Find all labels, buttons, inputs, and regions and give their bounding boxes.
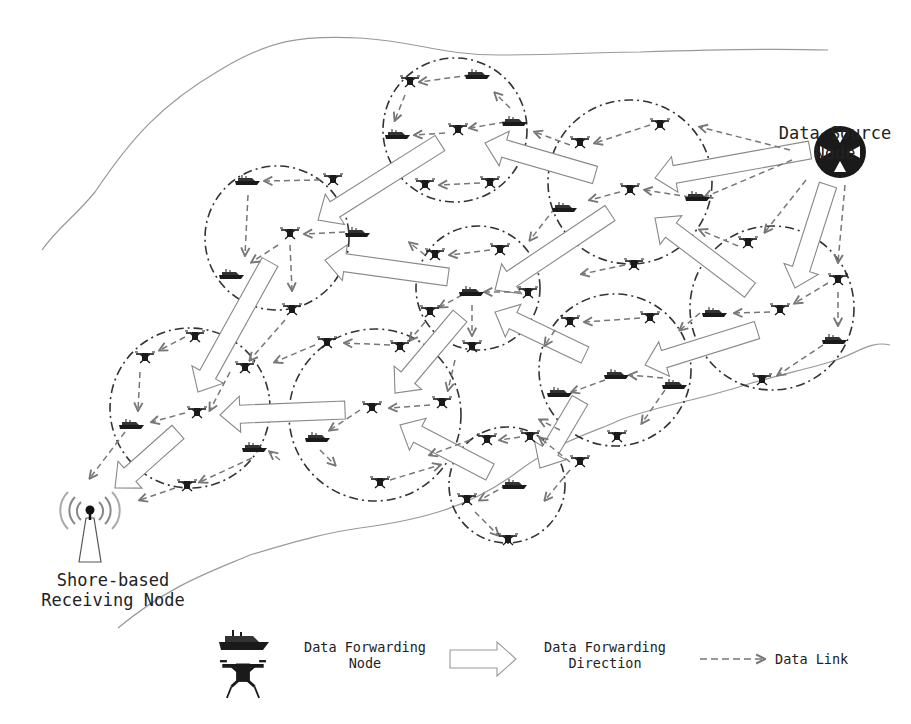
forwarding-direction-arrow [655, 216, 755, 297]
data-link [305, 232, 345, 234]
uav-node-icon [187, 407, 207, 418]
forwarding-direction-arrow [495, 304, 589, 363]
legend-node-line1: Data Forwarding [280, 640, 450, 656]
data-link [500, 437, 520, 440]
usv-node-icon [822, 334, 847, 344]
forwarding-direction-arrow [495, 206, 615, 294]
forwarding-direction-arrow [220, 396, 345, 432]
data-link [595, 125, 650, 143]
data-link [140, 488, 175, 500]
uav-node-icon [457, 494, 477, 505]
usv-node-icon [465, 69, 490, 79]
uav-node-icon [135, 352, 155, 363]
data-link [475, 512, 498, 535]
data-link [390, 405, 430, 408]
legend-drone-icon [220, 661, 266, 698]
uav-node-icon [640, 312, 660, 323]
data-link [152, 413, 185, 422]
forwarding-direction-arrow [318, 135, 445, 224]
uav-node-icon [607, 431, 627, 442]
uav-node-icon [235, 362, 255, 373]
legend-node-line2: Node [280, 656, 450, 672]
uav-node-icon [185, 331, 205, 342]
uav-node-icon [828, 274, 848, 285]
shore-receiving-node-icon [60, 492, 119, 562]
uav-node-icon [752, 374, 772, 385]
cluster-circle [690, 226, 854, 390]
data-link [440, 295, 462, 307]
uav-node-icon [425, 249, 445, 260]
uav-node-icon [317, 337, 337, 348]
forwarding-direction-arrow [115, 425, 184, 488]
uav-node-icon [520, 431, 540, 442]
data-link [138, 372, 140, 410]
uav-node-icon [770, 304, 790, 315]
data-link [448, 360, 455, 390]
network-diagram [0, 0, 911, 724]
data-link [395, 95, 405, 120]
usv-node-icon [459, 286, 484, 296]
cluster-circle [205, 166, 349, 310]
legend-forwarding-direction-label: Data Forwarding Direction [525, 640, 685, 671]
data-source-node-label: Data Source Node [765, 124, 905, 163]
data-link [535, 132, 570, 145]
data-link [200, 458, 252, 482]
uav-node-icon [570, 456, 590, 467]
uav-node-icon [477, 434, 497, 445]
legend-forwarding-direction-arrow-icon [450, 642, 516, 676]
uav-node-icon [370, 477, 390, 488]
shore-label-line2: Receiving Node [18, 591, 208, 611]
data-link [470, 122, 505, 128]
usv-node-icon [119, 419, 144, 429]
shore-receiving-node-label: Shore-based Receiving Node [18, 571, 208, 610]
usv-node-icon [702, 307, 727, 317]
data-link [642, 390, 665, 423]
uav-node-icon [570, 137, 590, 148]
data-source-label-line2: Node [765, 144, 905, 164]
data-link [415, 133, 445, 135]
data-link [495, 93, 510, 108]
legend-data-link-label: Data Link [775, 652, 875, 668]
legend-forwarding-node-label: Data Forwarding Node [280, 640, 450, 671]
data-link [795, 283, 828, 303]
data-link [838, 185, 845, 262]
usv-node-icon [502, 116, 527, 126]
usv-node-icon [552, 202, 577, 212]
data-source-label-line1: Data Source [765, 124, 905, 144]
legend-direction-line2: Direction [525, 656, 685, 672]
data-link [585, 318, 640, 322]
data-link [450, 250, 490, 255]
shore-label-line1: Shore-based [18, 571, 208, 591]
uav-node-icon [624, 259, 644, 270]
usv-node-icon [242, 442, 267, 452]
usv-node-icon [385, 129, 410, 139]
uav-node-icon [415, 179, 435, 190]
legend-boat-icon [219, 630, 269, 650]
data-link [440, 183, 480, 185]
data-link [572, 380, 605, 392]
data-link [410, 243, 425, 255]
uav-node-icon [390, 341, 410, 352]
usv-node-icon [305, 432, 330, 442]
data-link [290, 245, 292, 290]
data-link [630, 375, 663, 378]
data-link [160, 337, 185, 350]
data-link [590, 192, 620, 200]
data-forwarding-direction-arrows [115, 131, 837, 488]
data-link [545, 470, 570, 500]
data-link [582, 265, 625, 274]
uav-node-icon [560, 316, 580, 327]
usv-node-icon [662, 379, 687, 389]
data-link [345, 343, 390, 345]
uav-node-icon [432, 397, 452, 408]
uav-node-icon [620, 184, 640, 195]
data-link [700, 230, 738, 246]
data-link [645, 190, 690, 197]
uav-node-icon [490, 244, 510, 255]
data-link [735, 312, 770, 313]
forwarding-direction-arrow [645, 321, 760, 376]
uav-node-icon [650, 119, 670, 130]
uav-node-icon [738, 237, 758, 248]
uav-node-icon [323, 174, 343, 185]
usv-node-icon [219, 269, 244, 279]
